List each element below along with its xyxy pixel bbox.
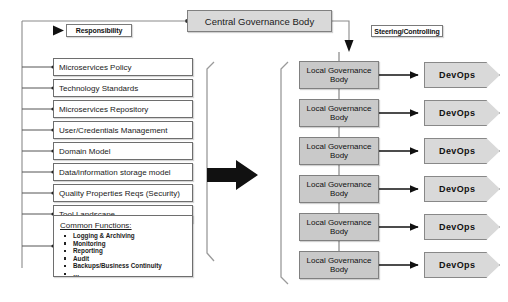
local-governance-body[interactable]: Local Governance Body bbox=[299, 137, 379, 165]
policy-box-technology-standards[interactable]: Technology Standards bbox=[53, 79, 193, 97]
devops-arrow[interactable]: DevOps bbox=[424, 100, 500, 126]
local-governance-body-label: Local Governance Body bbox=[300, 142, 378, 161]
local-governance-body[interactable]: Local Governance Body bbox=[299, 213, 379, 241]
local-governance-body-label: Local Governance Body bbox=[300, 218, 378, 237]
devops-arrow[interactable]: DevOps bbox=[424, 176, 500, 202]
common-functions-item: Logging & Archiving bbox=[60, 232, 187, 240]
devops-label: DevOps bbox=[439, 70, 475, 80]
common-functions-item: … bbox=[60, 270, 187, 278]
policy-label: Microservices Repository bbox=[59, 105, 148, 114]
policy-label: Data/information storage model bbox=[59, 168, 171, 177]
local-governance-body[interactable]: Local Governance Body bbox=[299, 99, 379, 127]
steering-controlling-label: Steering/Controlling bbox=[371, 25, 443, 37]
policy-box-microservices-policy[interactable]: Microservices Policy bbox=[53, 58, 193, 76]
policy-box-user-credentials-management[interactable]: User/Credentials Management bbox=[53, 121, 193, 139]
local-governance-body[interactable]: Local Governance Body bbox=[299, 251, 379, 279]
policy-box-data-information-storage-model[interactable]: Data/information storage model bbox=[53, 163, 193, 181]
devops-arrow[interactable]: DevOps bbox=[424, 62, 500, 88]
central-governance-body-label: Central Governance Body bbox=[205, 16, 314, 27]
local-governance-body[interactable]: Local Governance Body bbox=[299, 175, 379, 203]
policy-label: Quality Properties Reqs (Security) bbox=[59, 189, 180, 198]
policy-box-domain-model[interactable]: Domain Model bbox=[53, 142, 193, 160]
common-functions-item: Monitoring bbox=[60, 240, 187, 248]
devops-arrow[interactable]: DevOps bbox=[424, 214, 500, 240]
steering-controlling-label-text: Steering/Controlling bbox=[374, 28, 439, 35]
policy-box-microservices-repository[interactable]: Microservices Repository bbox=[53, 100, 193, 118]
common-functions-item: Reporting bbox=[60, 247, 187, 255]
common-functions-title: Common Functions: bbox=[60, 221, 187, 230]
responsibility-label-text: Responsibility bbox=[76, 27, 122, 34]
policy-box-quality-properties-reqs[interactable]: Quality Properties Reqs (Security) bbox=[53, 184, 193, 202]
devops-label: DevOps bbox=[439, 222, 475, 232]
devops-label: DevOps bbox=[439, 184, 475, 194]
policy-label: User/Credentials Management bbox=[59, 126, 168, 135]
devops-arrow[interactable]: DevOps bbox=[424, 138, 500, 164]
local-governance-body[interactable]: Local Governance Body bbox=[299, 61, 379, 89]
common-functions-box[interactable]: Common Functions: Logging & Archiving Mo… bbox=[53, 215, 193, 277]
devops-label: DevOps bbox=[439, 146, 475, 156]
policy-label: Microservices Policy bbox=[59, 63, 131, 72]
devops-label: DevOps bbox=[439, 260, 475, 270]
local-governance-body-label: Local Governance Body bbox=[300, 256, 378, 275]
responsibility-label: Responsibility bbox=[66, 24, 132, 37]
central-governance-body[interactable]: Central Governance Body bbox=[187, 10, 332, 32]
policy-label: Technology Standards bbox=[59, 84, 138, 93]
devops-label: DevOps bbox=[439, 108, 475, 118]
devops-arrow[interactable]: DevOps bbox=[424, 252, 500, 278]
policy-label: Domain Model bbox=[59, 147, 111, 156]
common-functions-item: Audit bbox=[60, 255, 187, 263]
diagram-canvas: Central Governance Body Responsibility S… bbox=[0, 0, 508, 302]
local-governance-body-label: Local Governance Body bbox=[300, 66, 378, 85]
common-functions-list: Logging & Archiving Monitoring Reporting… bbox=[60, 232, 187, 278]
local-governance-body-label: Local Governance Body bbox=[300, 104, 378, 123]
local-governance-body-label: Local Governance Body bbox=[300, 180, 378, 199]
common-functions-item: Backups/Business Continuity bbox=[60, 262, 187, 270]
